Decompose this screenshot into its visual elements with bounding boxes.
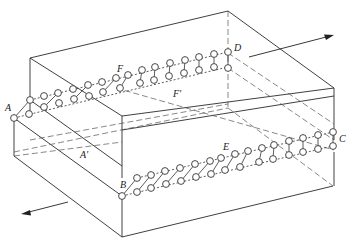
bottom-arrow xyxy=(21,202,68,216)
block-diagram: A A' B C D E F F' xyxy=(0,0,354,249)
label-F-prime: F' xyxy=(172,88,182,99)
label-A: A xyxy=(4,102,12,113)
label-A-prime: A' xyxy=(79,149,89,160)
arrowhead-left-icon xyxy=(21,210,31,216)
label-D: D xyxy=(233,42,242,53)
label-B: B xyxy=(120,179,126,190)
label-E: E xyxy=(222,141,229,152)
top-arrow xyxy=(249,35,334,58)
label-C: C xyxy=(339,133,346,144)
label-F: F xyxy=(116,63,124,74)
arrowhead-right-icon xyxy=(324,35,334,41)
upper-chain xyxy=(11,49,232,122)
